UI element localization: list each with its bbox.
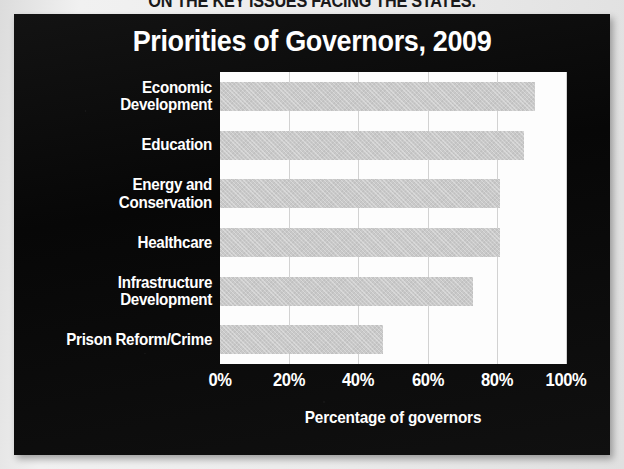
bar: [220, 131, 524, 160]
category-label-line: Energy and: [30, 176, 212, 194]
bar-row: [220, 179, 566, 208]
category-label-line: Conservation: [30, 194, 212, 212]
x-tick-label: 0%: [208, 370, 231, 391]
chart-panel: Priorities of Governors, 2009 EconomicDe…: [14, 14, 610, 455]
bar: [220, 82, 535, 111]
bar: [220, 228, 500, 257]
bar-row: [220, 277, 566, 306]
gridline-100%: [566, 72, 567, 364]
bar: [220, 325, 383, 354]
category-label: Healthcare: [30, 234, 212, 252]
category-label: EconomicDevelopment: [30, 79, 212, 114]
category-label-line: Development: [30, 96, 212, 114]
bar-row: [220, 82, 566, 111]
category-label: Energy andConservation: [30, 176, 212, 211]
gridline-40%: [358, 72, 359, 364]
chart-body: EconomicDevelopmentEducationEnergy andCo…: [14, 72, 610, 364]
bar: [220, 179, 500, 208]
category-label: Prison Reform/Crime: [30, 331, 212, 349]
category-label-line: Healthcare: [30, 234, 212, 252]
x-tick-label: 20%: [273, 370, 305, 391]
category-label: InfrastructureDevelopment: [30, 274, 212, 309]
bar-row: [220, 325, 566, 354]
gridline-80%: [497, 72, 498, 364]
bar-row: [220, 131, 566, 160]
x-tick-label: 60%: [412, 370, 444, 391]
category-label-line: Infrastructure: [30, 274, 212, 292]
article-headline: ON THE KEY ISSUES FACING THE STATES.: [22, 0, 602, 13]
x-tick-label: 80%: [481, 370, 513, 391]
category-label-line: Education: [30, 136, 212, 154]
gridline-60%: [428, 72, 429, 364]
bar: [220, 277, 473, 306]
x-tick-label: 40%: [342, 370, 374, 391]
category-axis-labels: EconomicDevelopmentEducationEnergy andCo…: [14, 72, 217, 364]
gridline-20%: [289, 72, 290, 364]
category-label: Education: [30, 136, 212, 154]
category-label-line: Development: [30, 291, 212, 309]
chart-title: Priorities of Governors, 2009: [44, 24, 580, 58]
x-axis-tick-labels: 0%20%40%60%80%100%: [220, 370, 566, 396]
plot-area: [220, 72, 566, 364]
x-axis-title: Percentage of governors: [232, 408, 554, 427]
category-label-line: Prison Reform/Crime: [30, 331, 212, 349]
x-tick-label: 100%: [546, 370, 587, 391]
category-label-line: Economic: [30, 79, 212, 97]
bar-row: [220, 228, 566, 257]
